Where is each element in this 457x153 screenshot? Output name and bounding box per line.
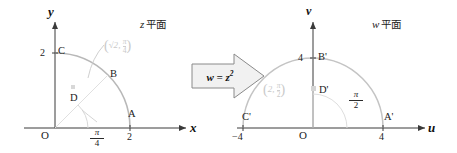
z-point-label-A: A [128,108,136,119]
w-angle-arc [313,94,347,128]
z-origin-label: O [41,129,49,141]
w-v-axis-arrowhead [310,22,316,29]
w-angle-label: π 2 [349,90,363,111]
z-angle-numerator: π [90,128,104,137]
z-x-axis-arrowhead [179,125,186,131]
w-point-label-D-prime: D' [319,84,328,95]
z-point-D-marker [71,85,75,89]
z-plane-title-cjk: 平面 [146,18,166,30]
w-polar-close-paren: ) [280,82,285,97]
z-x-tick-label: 2 [127,131,132,142]
w-angle-numerator: π [349,90,363,99]
w-origin-label: O [299,129,307,141]
mapping-formula-equals: = [217,71,223,83]
w-point-D-prime-marker [311,86,316,91]
z-angle-label: π 4 [90,128,104,149]
w-plane-title-variable: w [372,18,381,30]
w-u-tick-label-negative: −4 [232,131,243,142]
w-u-axis-arrowhead [418,125,425,131]
z-y-axis-arrowhead [52,22,58,29]
w-plane-title: w平面 [372,16,401,31]
w-point-label-A-prime: A' [384,111,393,122]
mapping-formula-lhs: w [206,71,213,83]
z-plane-title: z平面 [140,16,166,31]
z-polar-close-paren: ) [126,38,131,53]
z-polar-radius: √2 [109,40,118,50]
z-point-label-D: D [70,92,78,103]
z-point-label-B: B [110,68,117,79]
w-plane-title-cjk: 平面 [381,18,401,30]
w-v-tick-label: 4 [298,52,303,63]
w-angle-denominator: 2 [349,101,363,110]
z-radius-line [55,75,108,128]
z-x-axis-label: x [190,120,197,136]
conformal-mapping-figure: z平面 y x O 2 2 π 4 A B C D (√2, π4) w = z… [0,0,457,153]
w-u-axis-label: u [428,120,435,136]
w-polar-annotation: (2, π2) [263,82,285,99]
z-y-tick-label: 2 [40,47,45,58]
w-point-label-C-prime: C' [242,111,251,122]
z-point-label-C: C [58,45,65,56]
z-y-axis-label: y [48,4,54,20]
w-point-label-B-prime: B' [318,51,327,62]
z-angle-leader [82,110,97,122]
w-plane-panel: w平面 v u O 4 −4 4 π 2 A' B' C' D' (2, π2) [229,0,457,153]
z-polar-annotation: (√2, π4) [104,38,131,55]
w-v-axis-label: v [306,4,311,19]
w-plane-graphic [229,0,457,153]
z-angle-arc [78,105,88,128]
z-angle-denominator: 4 [90,139,104,148]
w-u-tick-label-positive: 4 [379,131,384,142]
